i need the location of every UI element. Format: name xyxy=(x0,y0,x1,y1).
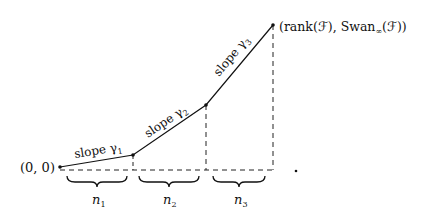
brace-label-3: n3 xyxy=(234,192,247,209)
brace-3 xyxy=(213,176,265,187)
brace-1 xyxy=(67,176,127,187)
newton-polygon-diagram: (0, 0) (rank(ℱ), Swan∞(ℱ)) slope γ1 slop… xyxy=(0,0,426,213)
vertex-origin xyxy=(58,165,62,169)
trailing-period xyxy=(295,170,298,173)
brace-2 xyxy=(139,176,199,187)
brace-label-2: n2 xyxy=(163,192,176,209)
slope-label-1: slope γ1 xyxy=(73,140,123,163)
origin-label: (0, 0) xyxy=(20,160,55,175)
slope-label-2: slope γ2 xyxy=(142,102,191,142)
vertex-2 xyxy=(204,103,208,107)
endpoint-label: (rank(ℱ), Swan∞(ℱ)) xyxy=(279,19,407,36)
vertex-1 xyxy=(131,153,135,157)
brace-label-1: n1 xyxy=(92,192,105,209)
vertex-end xyxy=(271,23,275,27)
